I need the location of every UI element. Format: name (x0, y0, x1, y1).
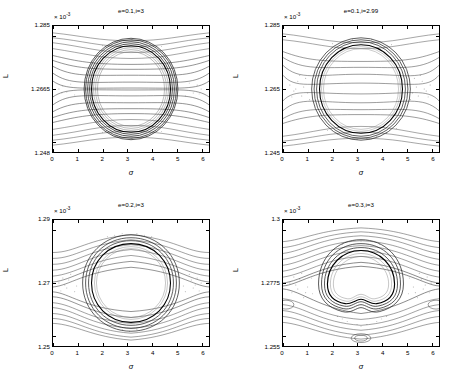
axis-tick (53, 283, 56, 284)
x-tick-label: 3 (356, 349, 359, 357)
x-tick-label: 2 (101, 349, 104, 357)
x-tick-label: 2 (331, 349, 334, 357)
axis-tick (206, 142, 209, 143)
y-tick-label-bottom: 1.245 (230, 149, 280, 156)
axis-tick (283, 142, 286, 143)
axis-tick (103, 343, 104, 346)
y-axis-exponent: × 10-3 (54, 11, 70, 21)
axis-tick (53, 230, 56, 231)
axis-tick (127, 220, 128, 223)
axes-area (282, 219, 440, 347)
axis-tick (357, 220, 358, 223)
plot-panel-bottom-left: e=0.2,i=3 × 10-3 1.29 1.27 1.25 L (0, 194, 230, 388)
axis-tick (206, 283, 209, 284)
y-tick-label-bottom: 1.255 (230, 343, 280, 350)
axis-tick (308, 149, 309, 152)
y-axis-label: L (2, 74, 10, 78)
panel-title: e=0.1,i=3 (52, 7, 210, 15)
poincare-curves (53, 220, 209, 346)
y-axis-exponent: × 10-3 (284, 205, 300, 215)
axis-tick (333, 149, 334, 152)
x-tick-label: 6 (201, 155, 204, 163)
axis-tick (436, 36, 439, 37)
poincare-curves (53, 26, 209, 152)
axis-tick (436, 230, 439, 231)
axis-tick (53, 142, 56, 143)
x-tick-marks: 0 1 2 3 4 5 6 (282, 349, 440, 359)
axis-tick (432, 26, 433, 29)
x-tick-label: 1 (75, 349, 78, 357)
y-axis-label: L (232, 74, 240, 78)
y-tick-label-top: 1.3 (230, 215, 280, 222)
axis-tick (152, 343, 153, 346)
axis-tick (382, 149, 383, 152)
x-tick-label: 3 (126, 349, 129, 357)
axis-tick (407, 149, 408, 152)
y-tick-label-top: 1.29 (0, 215, 50, 222)
x-tick-label: 4 (381, 349, 384, 357)
axis-tick (78, 343, 79, 346)
poincare-section-figure: e=0.1,i=3 × 10-3 1.285 1.2665 1.248 L (0, 0, 460, 388)
axis-tick (53, 149, 54, 152)
axis-tick (202, 220, 203, 223)
x-axis-label: σ (282, 362, 440, 371)
axis-tick (333, 220, 334, 223)
x-tick-label: 1 (75, 155, 78, 163)
axis-tick (436, 142, 439, 143)
x-tick-label: 5 (176, 155, 179, 163)
plot-panel-top-right: e=0.1,i=2.99 × 10-3 1.285 1.265 1.245 L (230, 0, 460, 194)
axis-tick (206, 36, 209, 37)
axis-tick (53, 343, 54, 346)
axes-area (52, 219, 210, 347)
x-tick-marks: 0 1 2 3 4 5 6 (282, 155, 440, 165)
plot-panel-top-left: e=0.1,i=3 × 10-3 1.285 1.2665 1.248 L (0, 0, 230, 194)
x-axis-label: σ (52, 168, 210, 177)
x-tick-label: 0 (280, 155, 283, 163)
axis-tick (127, 26, 128, 29)
axis-tick (206, 336, 209, 337)
x-tick-label: 2 (331, 155, 334, 163)
axis-tick (283, 89, 286, 90)
axis-tick (407, 220, 408, 223)
axis-tick (308, 26, 309, 29)
x-tick-label: 6 (431, 155, 434, 163)
x-tick-label: 4 (381, 155, 384, 163)
x-tick-label: 5 (406, 349, 409, 357)
axes-area (52, 25, 210, 153)
x-tick-label: 4 (151, 349, 154, 357)
axis-tick (206, 89, 209, 90)
axis-tick (103, 149, 104, 152)
axis-tick (382, 343, 383, 346)
axis-tick (283, 26, 284, 29)
x-tick-label: 3 (356, 155, 359, 163)
y-axis-exponent: × 10-3 (54, 205, 70, 215)
axis-tick (53, 36, 56, 37)
axis-tick (357, 149, 358, 152)
axis-tick (127, 343, 128, 346)
y-tick-label-top: 1.285 (0, 21, 50, 28)
x-tick-label: 1 (305, 155, 308, 163)
axis-tick (53, 336, 56, 337)
axis-tick (357, 343, 358, 346)
axes-area (282, 25, 440, 153)
axis-tick (308, 343, 309, 346)
poincare-curves (283, 26, 439, 152)
y-tick-label-top: 1.285 (230, 21, 280, 28)
axis-tick (407, 343, 408, 346)
x-tick-label: 1 (305, 349, 308, 357)
panel-title: e=0.1,i=2.99 (282, 7, 440, 15)
axis-tick (177, 220, 178, 223)
x-tick-label: 0 (280, 349, 283, 357)
axis-tick (436, 336, 439, 337)
axis-tick (283, 343, 284, 346)
axis-tick (308, 220, 309, 223)
axis-tick (152, 149, 153, 152)
x-tick-marks: 0 1 2 3 4 5 6 (52, 155, 210, 165)
axis-tick (432, 343, 433, 346)
axis-tick (382, 220, 383, 223)
axis-tick (152, 220, 153, 223)
y-tick-label-mid: 1.265 (230, 85, 280, 92)
y-tick-label-mid: 1.27 (0, 279, 50, 286)
axis-tick (206, 230, 209, 231)
x-tick-label: 4 (151, 155, 154, 163)
